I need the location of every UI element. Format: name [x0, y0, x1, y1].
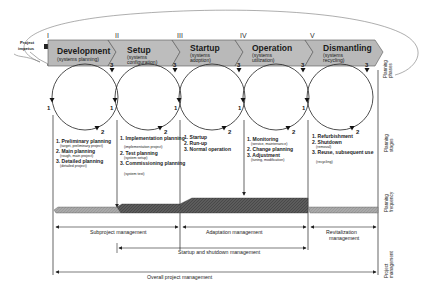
phase-title-development: Development	[57, 46, 111, 56]
cycle-arrow-icon	[113, 98, 118, 103]
svg-text:3. Normal operation: 3. Normal operation	[184, 146, 231, 152]
phase-number-1: I	[47, 32, 49, 39]
cycle-arrow-icon	[110, 68, 115, 73]
subproject-management-label: Subproject management	[90, 229, 147, 235]
svg-text:(detailed project): (detailed project)	[60, 164, 87, 168]
project-lifecycle-diagram: Project impetus I II III IV V Developmen…	[0, 0, 424, 293]
cycle-step-number: 1	[110, 105, 114, 111]
stage-list-4: 1. Monitoring (service, maintenance) 2. …	[247, 136, 293, 162]
project-impetus-label: Project impetus	[18, 40, 35, 51]
svg-text:3. Reuse, subsequent use: 3. Reuse, subsequent use	[312, 149, 374, 155]
phase-number-5: V	[310, 32, 315, 39]
revitalization-management-label: Revitalization management	[326, 229, 360, 241]
cycle-step-number: 1	[238, 105, 242, 111]
side-label-project-management: Project management	[384, 250, 394, 278]
svg-text:(system test): (system test)	[124, 172, 145, 176]
planning-cycle-4	[243, 64, 309, 130]
svg-text:(recycling): (recycling)	[316, 160, 333, 164]
cycle-arrow-icon	[50, 98, 55, 103]
phase-number-4: IV	[240, 32, 247, 39]
stage-list-1: 1. Preliminary planning (target, prelimi…	[56, 138, 111, 168]
phase-subtitle-startup: (systems adoption)	[190, 52, 211, 63]
frequency-segment-startup-operation	[180, 198, 308, 213]
planning-cycle-2	[115, 64, 181, 130]
side-label-planning-stages: Planning stages	[384, 133, 394, 152]
stage-list-2: 1. Implementation planning (implementati…	[120, 135, 185, 176]
ellipse-return-arrow	[14, 54, 40, 62]
management-spans: Subproject management Adaptation managem…	[56, 227, 376, 280]
cycle-step-number: 2	[292, 129, 296, 135]
side-label-planning-phases: Planning phases	[383, 59, 393, 78]
stage-list-3: 1. Startup 2. Run-up 3. Normal operation	[184, 134, 231, 152]
svg-text:(tuning, modification): (tuning, modification)	[251, 158, 284, 162]
cycle-arrow-icon	[365, 68, 370, 73]
frequency-segment-dismantling	[308, 207, 378, 213]
phase-number-3: III	[177, 32, 183, 39]
overall-project-management-label: Overall project management	[147, 274, 213, 280]
cycle-step-number: 1	[47, 105, 51, 111]
stage-list-5: 1. Refurbishment 2. Shutdown (removal) 3…	[312, 133, 374, 164]
cycle-step-number: 1	[302, 105, 306, 111]
frequency-segment-development	[54, 207, 121, 213]
planning-frequency-bar	[54, 198, 378, 213]
planning-cycle-3	[179, 64, 245, 130]
planning-cycles: 123123123123123	[47, 62, 373, 135]
phase-subtitle-operation: (systems utilization)	[252, 52, 275, 63]
cycle-step-number: 2	[101, 129, 105, 135]
side-labels: Planning phases Planning stages Planning…	[383, 59, 394, 278]
cycle-arrow-icon	[301, 68, 306, 73]
adaptation-management-label: Adaptation management	[206, 229, 263, 235]
svg-text:1. Implementation planning: 1. Implementation planning	[120, 135, 185, 141]
planning-cycle-1	[52, 64, 118, 130]
svg-text:3. Commissioning planning: 3. Commissioning planning	[120, 160, 185, 166]
cycle-step-number: 2	[356, 129, 360, 135]
cycle-step-number: 1	[174, 105, 178, 111]
phase-subtitle-development: (systems planning)	[57, 56, 99, 62]
side-label-planning-frequency: Planning frequency	[384, 191, 394, 212]
cycle-arrow-icon	[173, 68, 178, 73]
phase-subtitle-dismantling: (systems recycling)	[323, 52, 345, 63]
phase-number-2: II	[115, 32, 119, 39]
planning-cycle-5	[307, 64, 373, 130]
frequency-segment-setup	[117, 204, 182, 213]
cycle-step-number: 2	[228, 129, 232, 135]
startup-shutdown-management-label: Startup and shutdown management	[178, 249, 261, 255]
svg-text:(implementation project): (implementation project)	[124, 145, 163, 149]
cycle-arrow-icon	[237, 68, 242, 73]
